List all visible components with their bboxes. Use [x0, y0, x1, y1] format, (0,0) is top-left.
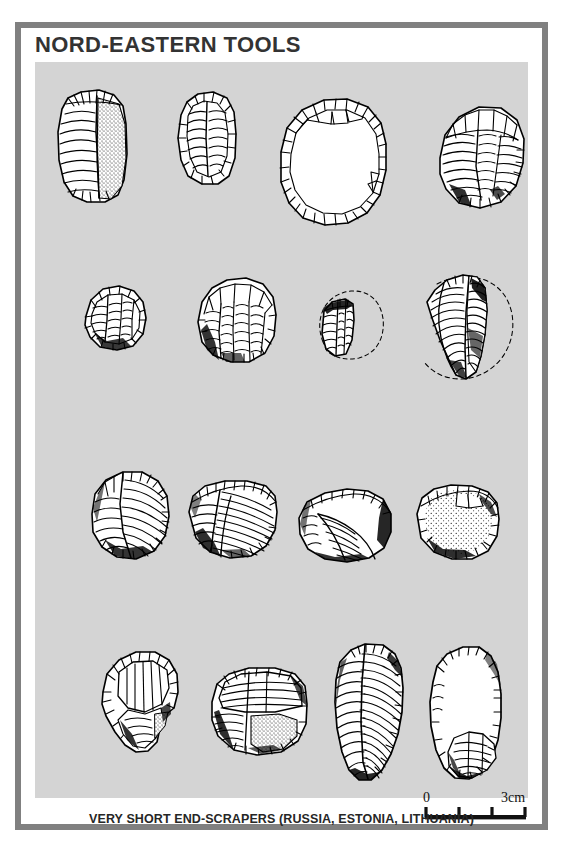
artifact-8 — [424, 275, 513, 379]
page-title: NORD-EASTERN TOOLS — [35, 32, 301, 58]
artifact-10 — [189, 481, 277, 558]
artifact-14 — [212, 668, 307, 755]
plate-inner: NORD-EASTERN TOOLS — [21, 28, 542, 824]
artifact-5 — [85, 286, 146, 350]
artifact-2 — [178, 92, 236, 184]
scale-end-label: 3cm — [501, 790, 525, 805]
artifact-4 — [440, 107, 524, 208]
plate-page: NORD-EASTERN TOOLS — [0, 0, 562, 863]
artifact-15 — [335, 644, 403, 780]
artifact-7 — [320, 291, 384, 359]
plate-frame: NORD-EASTERN TOOLS — [15, 22, 548, 830]
artifact-3 — [280, 99, 386, 225]
artifact-1 — [58, 90, 127, 202]
plate-caption: VERY SHORT END-SCRAPERS (RUSSIA, ESTONIA… — [21, 812, 542, 826]
artifact-6 — [198, 278, 276, 362]
figure-panel — [35, 62, 528, 798]
artifact-11 — [299, 489, 391, 562]
artifact-13 — [102, 652, 178, 752]
lithic-artifact-illustrations — [35, 62, 528, 798]
scale-start-label: 0 — [423, 790, 430, 805]
artifact-12 — [417, 485, 499, 559]
artifact-9 — [92, 472, 169, 559]
artifact-15b — [430, 647, 501, 779]
